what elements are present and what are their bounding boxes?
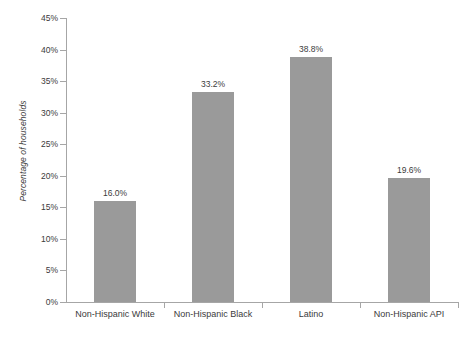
bar-value-label: 19.6% xyxy=(379,165,439,175)
bar-value-label: 38.8% xyxy=(281,44,341,54)
x-axis-tick-mark xyxy=(262,303,263,308)
bar xyxy=(94,201,136,302)
y-axis-tick-mark xyxy=(60,50,66,51)
bar-value-label: 33.2% xyxy=(183,79,243,89)
y-axis-tick-mark xyxy=(60,239,66,240)
x-axis-tick-mark xyxy=(458,303,459,308)
x-axis-tick-labels: Non-Hispanic WhiteNon-Hispanic BlackLati… xyxy=(0,309,474,329)
y-axis-tick-mark xyxy=(60,207,66,208)
x-axis-tick-mark xyxy=(164,303,165,308)
y-axis-tick-mark xyxy=(60,302,66,303)
y-axis-tick-mark xyxy=(60,113,66,114)
bar xyxy=(290,57,332,302)
y-axis-tick-mark xyxy=(60,270,66,271)
bar xyxy=(192,92,234,302)
bar-chart: Percentage of households 0%5%10%15%20%25… xyxy=(0,0,474,344)
x-axis-tick-mark xyxy=(360,303,361,308)
bars-layer xyxy=(0,0,474,302)
bar xyxy=(388,178,430,302)
bar-value-label: 16.0% xyxy=(85,188,145,198)
x-axis-category-label: Non-Hispanic API xyxy=(349,309,469,319)
y-axis-tick-mark xyxy=(60,176,66,177)
y-axis-tick-mark xyxy=(60,144,66,145)
y-axis-tick-mark xyxy=(60,18,66,19)
y-axis-tick-mark xyxy=(60,81,66,82)
